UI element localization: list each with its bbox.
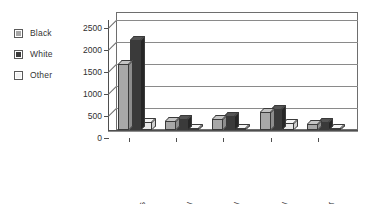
- bar-chart: Black White Other 05001000150020002500 D…: [0, 0, 372, 204]
- bar-face: [188, 128, 199, 130]
- x-axis-tick: [318, 138, 319, 142]
- x-axis-tick-label: Property: [232, 202, 241, 204]
- x-axis-tick-label: Drugs: [138, 202, 147, 204]
- y-axis-tick-label: 1500: [83, 68, 102, 77]
- chart-legend: Black White Other: [14, 23, 82, 86]
- legend-label: White: [30, 50, 53, 59]
- x-axis-tick-label: White Collar: [327, 202, 336, 204]
- bar-face: [118, 64, 129, 130]
- legend-item-white: White: [14, 44, 82, 65]
- y-axis-tick-label: 2500: [83, 24, 102, 33]
- legend-label: Black: [30, 29, 52, 38]
- x-axis-labels: DrugsRobberyPropertyFraud/BriberyWhite C…: [108, 140, 358, 204]
- bar-face: [165, 121, 176, 130]
- bar-other-property: [235, 128, 246, 130]
- y-axis-tick: [104, 138, 109, 139]
- y-axis-tick-label: 1000: [83, 90, 102, 99]
- x-axis-tick: [176, 138, 177, 142]
- bar-black-property: [212, 119, 223, 130]
- bars-layer: [108, 12, 358, 138]
- x-axis-tick-label: Robbery: [185, 202, 194, 204]
- x-axis-tick: [129, 138, 130, 142]
- legend-item-other: Other: [14, 65, 82, 86]
- bar-side: [282, 105, 286, 130]
- bar-face: [235, 128, 246, 130]
- plot-area: 05001000150020002500: [108, 12, 358, 138]
- legend-label: Other: [30, 71, 52, 80]
- bar-face: [307, 124, 318, 130]
- bar-face: [330, 128, 341, 130]
- bar-other-white-collar: [330, 128, 341, 130]
- bar-face: [260, 112, 271, 130]
- x-axis-tick: [223, 138, 224, 142]
- bar-other-robbery: [188, 128, 199, 130]
- y-axis-tick-label: 2000: [83, 46, 102, 55]
- bar-black-drugs: [118, 64, 129, 130]
- y-axis-tick-label: 500: [88, 112, 102, 121]
- y-axis-tick-label: 0: [97, 134, 102, 143]
- legend-swatch-icon: [14, 50, 23, 59]
- x-axis-tick: [271, 138, 272, 142]
- bar-black-robbery: [165, 121, 176, 130]
- legend-swatch-icon: [14, 71, 23, 80]
- legend-swatch-icon: [14, 29, 23, 38]
- bar-face: [212, 119, 223, 130]
- bar-side: [129, 60, 133, 130]
- x-axis-tick-label: Fraud/Bribery: [280, 202, 289, 204]
- bar-side: [141, 36, 145, 130]
- bar-black-white-collar: [307, 124, 318, 130]
- bar-black-fraud-bribery: [260, 112, 271, 130]
- legend-item-black: Black: [14, 23, 82, 44]
